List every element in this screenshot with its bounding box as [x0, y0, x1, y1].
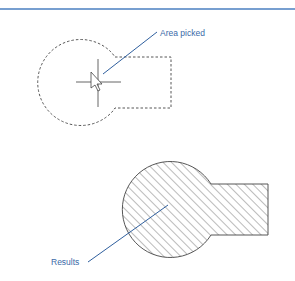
diagram-canvas: Area picked Results: [0, 0, 295, 281]
area-picked-leader: [103, 32, 157, 74]
results-figure: Results: [51, 150, 280, 270]
area-picked-figure: Area picked: [38, 28, 205, 126]
results-label: Results: [51, 257, 79, 267]
crosshair-cursor-icon: [76, 59, 121, 107]
dashed-boundary: [38, 40, 171, 126]
area-picked-label: Area picked: [160, 28, 205, 38]
